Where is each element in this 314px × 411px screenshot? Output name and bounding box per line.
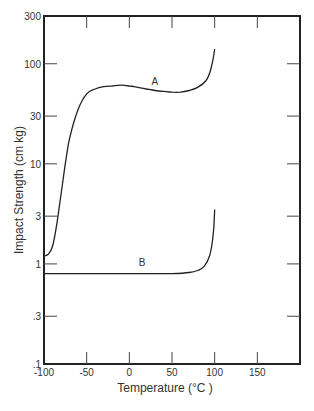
- plot-frame: [44, 16, 300, 364]
- y-tick-label: 1: [35, 259, 41, 270]
- impact-strength-chart: -100-50050100150.1.3131030100300 AB Temp…: [0, 0, 314, 411]
- y-axis-title: Impact Strength (cm kg): [12, 126, 26, 254]
- y-tick-label: 300: [24, 11, 41, 22]
- data-curves: [44, 49, 215, 274]
- x-tick-label: -50: [79, 367, 94, 378]
- curve-b: [44, 210, 215, 274]
- curve-label-b: B: [139, 257, 146, 268]
- axis-ticks: [44, 16, 300, 364]
- x-tick-label: 150: [249, 367, 266, 378]
- curve-a: [44, 49, 215, 256]
- y-tick-label: .1: [33, 359, 42, 370]
- x-tick-label: 0: [127, 367, 133, 378]
- y-tick-label: 100: [24, 59, 41, 70]
- y-tick-label: 10: [30, 159, 42, 170]
- y-tick-label: .3: [33, 311, 42, 322]
- x-tick-label: 100: [206, 367, 223, 378]
- curve-labels: AB: [139, 76, 159, 269]
- x-tick-label: 50: [166, 367, 178, 378]
- x-axis-title: Temperature (°C ): [117, 381, 213, 395]
- y-tick-label: 3: [35, 211, 41, 222]
- curve-label-a: A: [152, 76, 159, 87]
- y-tick-label: 30: [30, 111, 42, 122]
